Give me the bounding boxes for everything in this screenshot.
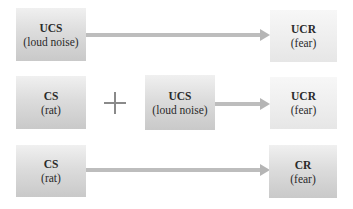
row3-cs-title: CS	[44, 157, 59, 171]
row3-cr-box: CR (fear)	[269, 145, 337, 198]
row2-ucs-subtitle: (loud noise)	[152, 103, 207, 117]
row3-cs-box: CS (rat)	[16, 145, 86, 197]
row2-ucr-title: UCR	[291, 89, 316, 103]
row1-ucr-box: UCR (fear)	[270, 10, 337, 62]
row3-cs-subtitle: (rat)	[41, 171, 61, 185]
row2-arrow-icon	[215, 102, 261, 106]
plus-icon	[104, 92, 126, 114]
row2-cs-box: CS (rat)	[16, 76, 86, 129]
row3-arrow-icon	[86, 168, 261, 172]
row1-ucr-title: UCR	[291, 22, 316, 36]
row1-ucs-box: UCS (loud noise)	[16, 8, 86, 61]
row2-ucr-subtitle: (fear)	[291, 103, 317, 117]
row1-ucs-title: UCS	[39, 21, 62, 35]
row2-cs-title: CS	[44, 89, 59, 103]
row2-cs-subtitle: (rat)	[41, 103, 61, 117]
row2-ucs-title: UCS	[168, 89, 191, 103]
row1-ucr-subtitle: (fear)	[291, 36, 317, 50]
row1-arrow-icon	[86, 33, 261, 37]
row2-ucr-box: UCR (fear)	[270, 77, 337, 129]
row2-ucs-box: UCS (loud noise)	[145, 75, 215, 130]
row3-cr-subtitle: (fear)	[290, 172, 316, 186]
row3-cr-title: CR	[295, 158, 312, 172]
row1-ucs-subtitle: (loud noise)	[23, 35, 78, 49]
